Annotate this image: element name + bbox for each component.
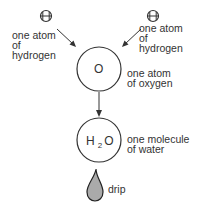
- drip-icon: [87, 169, 103, 201]
- drip-label: drip: [108, 184, 126, 194]
- water-formula-o: O: [104, 134, 113, 148]
- water-formula-subscript: 2: [98, 141, 102, 150]
- water-formula-h: H: [86, 134, 95, 148]
- water-label: one molecule of water: [127, 134, 189, 154]
- hydrogen-atom-icon-left: [41, 11, 52, 22]
- oxygen-label: one atom of oxygen: [127, 68, 173, 88]
- hydrogen-left-label: one atom of hydrogen: [12, 30, 56, 60]
- hydrogen-right-label: one atom of hydrogen: [139, 23, 183, 53]
- hydrogen-atom-icon-right: [148, 11, 159, 22]
- arrow-left-to-oxygen: [57, 29, 76, 47]
- water-formula: H2O: [86, 134, 113, 148]
- oxygen-symbol: O: [94, 64, 103, 74]
- arrow-down-to-water: [96, 92, 102, 117]
